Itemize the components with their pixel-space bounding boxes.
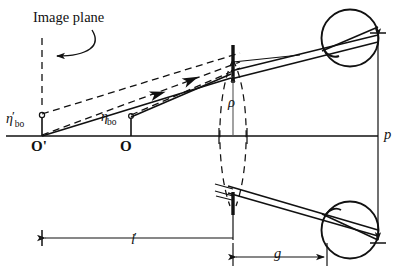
eye-lower (322, 202, 379, 259)
eta-bo-label: ηbo (101, 110, 117, 124)
diagram-canvas (0, 0, 413, 274)
rho-label: ρ (228, 95, 235, 110)
dashed-construction-rays (42, 53, 240, 135)
eta-prime-bo-label: η′bo (6, 112, 25, 126)
eta-subscript: bo (107, 117, 117, 127)
origin-label: O (120, 139, 132, 154)
eta-prime-bo-height (39, 112, 44, 136)
solid-incident-rays (42, 72, 231, 136)
image-plane-label: Image plane (33, 10, 104, 25)
optical-ray-diagram: Image plane η′bo ηbo O' O ρ p l′ g (0, 0, 413, 274)
origin-prime-label: O' (31, 139, 47, 154)
eta-prime-subscript: bo (15, 119, 25, 129)
g-label: g (274, 246, 281, 261)
p-label: p (384, 127, 391, 142)
image-plane-callout-arrow (57, 30, 95, 56)
l-prime-label: l′ (131, 232, 138, 247)
eye-upper (322, 10, 379, 67)
l-prime-mark: ′ (134, 229, 137, 244)
